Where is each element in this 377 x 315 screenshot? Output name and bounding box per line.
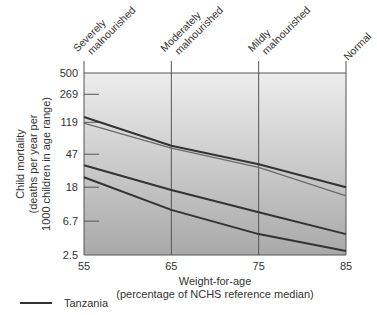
- y-tick-label: 2.5: [63, 249, 78, 261]
- y-tick-label: 6.7: [63, 215, 78, 227]
- category-label: Normal: [341, 30, 373, 62]
- y-tick-label: 47: [66, 148, 78, 160]
- y-axis-title: Child mortality(deaths per year per1000 …: [14, 97, 52, 231]
- category-label: Severelymalnourished: [70, 0, 137, 62]
- y-tick-label: 119: [60, 116, 78, 128]
- y-tick-label: 500: [60, 67, 78, 79]
- category-label: Mildlymalnourished: [245, 0, 312, 62]
- plot-area: [84, 73, 346, 255]
- x-tick-label: 85: [340, 260, 352, 272]
- y-tick-label: 18: [66, 181, 78, 193]
- legend: Tanzania: [20, 297, 109, 309]
- svg-text:Child mortality: Child mortality: [14, 129, 26, 199]
- x-tick-label: 75: [253, 260, 265, 272]
- legend-label: Tanzania: [64, 297, 109, 309]
- category-label: Moderatelymalnourished: [158, 0, 225, 62]
- svg-text:Weight-for-age: Weight-for-age: [179, 275, 252, 287]
- x-axis: 55657585: [78, 260, 352, 272]
- svg-text:1000 children in age range): 1000 children in age range): [40, 97, 52, 231]
- mortality-chart: 50026911947186.72.5 55657585 Severelymal…: [0, 0, 377, 315]
- svg-text:Normal: Normal: [341, 30, 373, 62]
- category-labels: SeverelymalnourishedModeratelymalnourish…: [70, 0, 373, 62]
- svg-text:(deaths per year per: (deaths per year per: [27, 114, 39, 213]
- svg-text:(percentage of NCHS reference: (percentage of NCHS reference median): [116, 288, 313, 300]
- y-tick-label: 269: [60, 88, 78, 100]
- x-axis-title: Weight-for-age(percentage of NCHS refere…: [116, 275, 313, 300]
- x-tick-label: 65: [165, 260, 177, 272]
- x-tick-label: 55: [78, 260, 90, 272]
